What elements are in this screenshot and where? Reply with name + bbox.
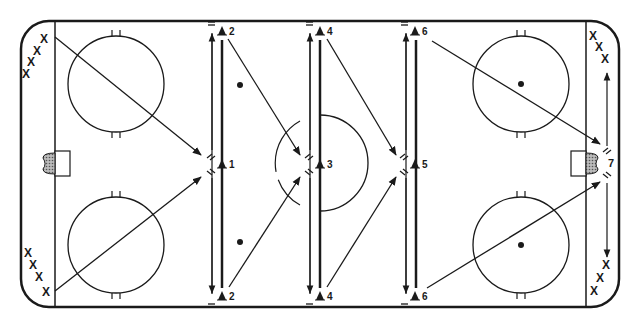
faceoff-circle: [68, 197, 164, 293]
cone-icon: [218, 291, 226, 300]
cone-label: 4: [327, 26, 333, 37]
lane-lines: [212, 33, 416, 294]
pass-marker: [603, 174, 608, 178]
pass-marker: [603, 148, 608, 152]
cone-icon: [218, 159, 226, 168]
cone-icon: [316, 291, 324, 300]
skating-paths-vertical: [212, 34, 607, 293]
player-x-mark: X: [35, 270, 43, 284]
player-x-mark: X: [22, 67, 30, 81]
goal-net: [43, 153, 55, 174]
pass-marker: [305, 154, 310, 158]
cone-icon: [218, 26, 226, 35]
player-x-mark: X: [602, 258, 610, 272]
player-x-mark: X: [42, 285, 50, 299]
arrow-diagonal: [228, 39, 300, 155]
pass-marker: [400, 154, 405, 158]
cone-label: 6: [422, 26, 428, 37]
cone-icon: [316, 26, 324, 35]
faceoff-dot: [237, 239, 243, 245]
arrow-diagonal: [55, 177, 201, 291]
faceoff-dot: [518, 242, 524, 248]
pass-marker: [207, 171, 212, 175]
goal-crease: [55, 151, 70, 176]
cone-label: 1: [229, 159, 235, 170]
arrow-diagonal: [229, 177, 300, 287]
cone-label: 4: [327, 291, 333, 302]
pass-marker: [400, 171, 405, 175]
faceoff-dot: [518, 81, 524, 87]
player-x-mark: X: [40, 32, 48, 46]
faceoff-dot: [237, 82, 243, 88]
arrow-diagonal: [327, 177, 396, 287]
rink-elements: 2124346567XXXXXXXXXXXXXX: [22, 22, 614, 307]
cone-icon: [411, 291, 419, 300]
arrow-diagonal: [432, 41, 600, 144]
cone-label: 2: [229, 291, 235, 302]
player-x-mark: X: [596, 271, 604, 285]
center-circle-left: [275, 121, 300, 205]
pass-marker: [606, 172, 611, 176]
faceoff-circle: [68, 36, 164, 132]
cone-icon: [411, 159, 419, 168]
cone-label: 6: [422, 291, 428, 302]
cone-icon: [411, 26, 419, 35]
player-x-mark: X: [590, 284, 598, 298]
cone-icon: [316, 159, 324, 168]
cone-label: 7: [608, 157, 614, 169]
pass-marker: [606, 150, 611, 154]
rink-canvas: 2124346567XXXXXXXXXXXXXX: [0, 0, 637, 327]
cone-label: 2: [229, 26, 235, 37]
player-x-mark: X: [601, 52, 609, 66]
goal-net: [586, 153, 598, 174]
pass-marker: [305, 171, 310, 175]
cone-label: 3: [327, 159, 333, 170]
goal-crease: [571, 151, 586, 176]
cone-label: 5: [422, 159, 428, 170]
rink-diagram: 2124346567XXXXXXXXXXXXXX: [0, 0, 637, 327]
arrow-diagonal: [55, 37, 201, 155]
pass-marker: [207, 154, 212, 158]
